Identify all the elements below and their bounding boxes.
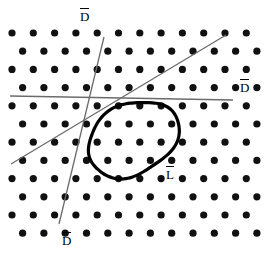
lattice-dot [200, 139, 207, 146]
lattice-dot [126, 230, 133, 237]
lattice-dot [211, 193, 218, 200]
label-d-bottom-glyph: D [62, 234, 71, 247]
lattice-dot [115, 211, 122, 218]
lattice-dot [40, 157, 47, 164]
lattice-dot [243, 102, 250, 109]
lattice-dot [8, 102, 15, 109]
lattice-dot [115, 66, 122, 73]
lattice-dot [104, 120, 111, 127]
lattice-dot [104, 48, 111, 55]
lattice-dot [168, 193, 175, 200]
label-d-bottom: D [62, 232, 71, 247]
lattice-dot [189, 157, 196, 164]
lattice-dot [40, 120, 47, 127]
lattice-dot [253, 230, 260, 237]
lattice-dot [83, 230, 90, 237]
lattice-dot [232, 84, 239, 91]
lattice-dot [72, 29, 79, 36]
lattice-dot [8, 175, 15, 182]
lattice-dot [104, 84, 111, 91]
lattice-dot [200, 211, 207, 218]
lattice-dot [104, 193, 111, 200]
lattice-dot [40, 48, 47, 55]
lattice-dot [126, 157, 133, 164]
lattice-dot [8, 211, 15, 218]
lattice-dot [126, 84, 133, 91]
lattice-dot [115, 29, 122, 36]
lattice-dot [232, 157, 239, 164]
label-l-loop-glyph: L [166, 168, 174, 181]
lattice-dot [232, 193, 239, 200]
lattice-dot [40, 84, 47, 91]
lattice-dot [158, 29, 165, 36]
lattice-dot [168, 157, 175, 164]
lattice-dot [136, 211, 143, 218]
lattice-dot [168, 48, 175, 55]
lattice-dot [51, 211, 58, 218]
lattice-dot [136, 29, 143, 36]
lattice-dot [221, 175, 228, 182]
lattice-dot [72, 66, 79, 73]
lattice-dot [147, 230, 154, 237]
lattice-dot [221, 102, 228, 109]
label-d-right-glyph: D [240, 81, 249, 94]
lattice-dot [200, 29, 207, 36]
lattice-dot [94, 29, 101, 36]
lattice-dot [136, 139, 143, 146]
lattice-dot [51, 29, 58, 36]
label-d-top-glyph: D [80, 10, 89, 23]
lattice-dot [243, 211, 250, 218]
lattice-dot [104, 230, 111, 237]
lattice-dot [62, 84, 69, 91]
lattice-dot [8, 66, 15, 73]
lattice-dot [179, 102, 186, 109]
lattice-dot [147, 193, 154, 200]
lattice-dot [211, 84, 218, 91]
lattice-dot [211, 157, 218, 164]
lattice-dot [19, 120, 26, 127]
lattice-dot [189, 193, 196, 200]
lattice-dot [179, 139, 186, 146]
lattice-dot [179, 211, 186, 218]
lattice-dot [211, 120, 218, 127]
lattice-dot [211, 48, 218, 55]
lattice-dot [30, 102, 37, 109]
lattice-dot [221, 211, 228, 218]
lattice-dot [232, 230, 239, 237]
lattice-dot [94, 139, 101, 146]
label-d-right: D [240, 79, 249, 94]
lattice-dot [62, 120, 69, 127]
lattice-dot [168, 120, 175, 127]
figure-canvas [0, 0, 264, 254]
lattice-dot [221, 139, 228, 146]
lattice-dot [94, 102, 101, 109]
lattice-dot [19, 193, 26, 200]
lattice-dot [147, 84, 154, 91]
lattice-dot [51, 175, 58, 182]
lattice-dot [72, 102, 79, 109]
lattice-dot [189, 230, 196, 237]
lattice-dot [126, 48, 133, 55]
lattice-dot [243, 139, 250, 146]
lattice-dot [30, 211, 37, 218]
lattice-dot [8, 29, 15, 36]
lattice-dot [147, 120, 154, 127]
lattice-dot [40, 193, 47, 200]
lattice-dot [158, 139, 165, 146]
label-l-loop: L [166, 166, 174, 181]
lattice-dot [62, 48, 69, 55]
lattice-dot [158, 211, 165, 218]
lattice-dot [243, 66, 250, 73]
lattice-dot [189, 120, 196, 127]
lattice-dot [62, 157, 69, 164]
lattice-dot [19, 84, 26, 91]
lattice-dot [189, 84, 196, 91]
lattice-dot [253, 48, 260, 55]
lattice-dot [51, 66, 58, 73]
lattice-dot [232, 120, 239, 127]
dot-lattice [8, 29, 264, 236]
lattice-dot [8, 139, 15, 146]
lattice-dot [104, 157, 111, 164]
lattice-dot [179, 175, 186, 182]
lattice-dot [72, 175, 79, 182]
